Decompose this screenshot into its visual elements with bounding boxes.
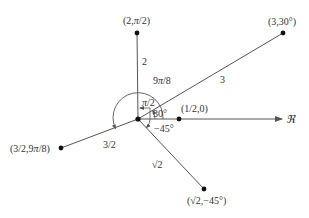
label-p3: (1/2,0) xyxy=(181,103,208,115)
point-p3 xyxy=(177,117,182,122)
label-p2: (3,30°) xyxy=(268,16,296,28)
origin-point xyxy=(135,116,140,121)
length-p5: √2 xyxy=(152,159,163,170)
label-p5: (√2,−45°) xyxy=(187,195,226,207)
angle-arc-minus45 xyxy=(147,119,151,128)
segment-p1 xyxy=(137,33,138,119)
polar-diagram: ℜ (2,π/2) (3,30°) (1/2,0) (3/2,9π/8) (√2… xyxy=(0,0,309,218)
length-p4: 3/2 xyxy=(103,139,116,150)
angle-label-9pi8: 9π/8 xyxy=(153,75,171,86)
angle-label-30: 30° xyxy=(153,108,167,119)
segment-p4 xyxy=(61,119,138,148)
length-p2: 3 xyxy=(220,74,225,85)
real-axis-label: ℜ xyxy=(286,113,296,125)
label-p4: (3/2,9π/8) xyxy=(10,143,50,155)
point-p1 xyxy=(135,31,140,36)
point-p4 xyxy=(59,146,64,151)
angle-label-pi2: π/2 xyxy=(142,97,155,108)
point-p5 xyxy=(202,187,207,192)
angle-label-minus45: −45° xyxy=(154,123,174,134)
label-p1: (2,π/2) xyxy=(123,15,150,27)
point-p2 xyxy=(281,31,286,36)
length-p1: 2 xyxy=(142,56,147,67)
